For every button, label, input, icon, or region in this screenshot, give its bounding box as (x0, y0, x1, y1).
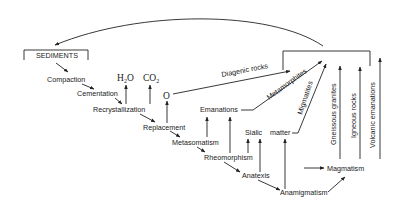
magmatism-label: Magmatism (327, 164, 364, 173)
sialic-label: Sialic (245, 128, 263, 137)
return-arc-arrow (55, 19, 323, 46)
matter-label: matter (270, 128, 291, 137)
chain-cementation: Cementation (77, 89, 118, 98)
chain-replacement: Replacement (143, 123, 185, 132)
chain-rheomorphism: Rheomorphism (204, 153, 253, 162)
gneissous-granites-label: Gneissous granites (329, 83, 338, 145)
products-bracket (283, 51, 370, 70)
volcanic-emanations-label: Volcanic emanations (368, 82, 377, 148)
o-label: O (163, 91, 170, 101)
emanations-label: Emanations (200, 105, 238, 114)
chain-anatexis: Anatexis (242, 171, 270, 180)
sediments-label: SEDIMENTS (36, 51, 78, 60)
migmatites-label: Migmatites (295, 79, 314, 115)
chain-anamigmatism: Anamigmatism (280, 188, 328, 197)
co2-label: CO2 (143, 73, 159, 84)
svg-text:H2O: H2O (117, 73, 134, 84)
h2o-label: H2O (117, 73, 134, 84)
chain-compaction: Compaction (47, 75, 85, 84)
chain-recrystallization: Recrystallization (93, 105, 145, 114)
rock-cycle-diagram: SEDIMENTS Compaction Cementation Recryst… (0, 0, 401, 211)
svg-text:CO2: CO2 (143, 73, 159, 84)
chain-metasomatism: Metasomatism (172, 138, 219, 147)
igneous-rocks-label: Igneous rocks (349, 93, 358, 138)
